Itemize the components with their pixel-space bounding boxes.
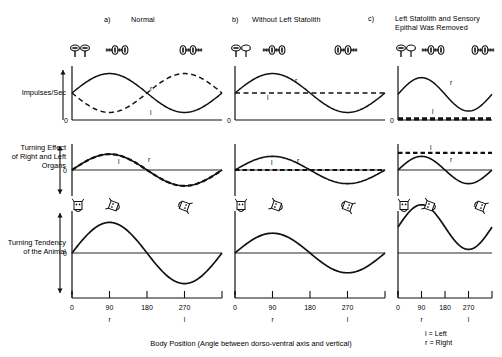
- animal-eye: [405, 204, 407, 206]
- axis-tick-label: 180: [141, 304, 153, 311]
- x-axis-a: 090180270rl: [70, 291, 222, 323]
- curve-c-turning-tendency: [398, 205, 492, 250]
- statocyst-tilted-group: [106, 46, 128, 54]
- panel-a-marker: a): [104, 15, 111, 24]
- curve-label-r: r: [150, 85, 153, 92]
- plot-c-turning-tendency: [398, 205, 492, 295]
- curve-label-r: r: [297, 157, 300, 164]
- plot-b-impulses: 0rl: [227, 66, 385, 124]
- animal-eye: [76, 204, 78, 206]
- axis-tick-label: 270: [179, 304, 191, 311]
- curve-label-l: l: [432, 108, 434, 115]
- plot-a-turning-effect: 0lr: [57, 144, 222, 196]
- x-axis-c: 090180270rl: [396, 291, 492, 323]
- curve-c-impulses-r: [398, 78, 492, 111]
- arrow-head-up: [57, 213, 62, 217]
- animal-icons-b: [235, 198, 355, 214]
- panel-a-title: Normal: [131, 15, 155, 24]
- panel-a: 0rl0lr0090180270rl: [57, 45, 222, 323]
- panel-c-title-line2: Epithal Was Removed: [395, 23, 468, 32]
- curve-a-impulses-l: [72, 74, 222, 113]
- zero-label-impulses: 0: [390, 117, 394, 124]
- animal-eye: [402, 204, 404, 206]
- plot-a-impulses: 0rl: [60, 66, 222, 124]
- curve-label-r: r: [450, 79, 453, 86]
- statocyst-icons-a: [71, 45, 202, 57]
- statocyst-bulb-empty: [242, 45, 251, 51]
- panel-c-marker: c): [368, 14, 374, 23]
- axis-sublabel-r: r: [108, 316, 111, 323]
- animal-icon-group: [105, 198, 121, 213]
- statocyst-icons-b: [232, 45, 357, 57]
- animal-icon-group: [398, 199, 410, 212]
- statocyst-tilted-group: [263, 46, 285, 54]
- panel-c: 0rllr090180270rl: [390, 45, 494, 323]
- arrow-head-up: [60, 70, 65, 74]
- zero-label-turning-tendency: 0: [63, 250, 67, 257]
- row-label-turning-effect-l2: of Right and Left: [12, 152, 66, 161]
- statocyst-tilted-group: [422, 46, 444, 54]
- curve-label-l: l: [267, 94, 269, 101]
- axis-sublabel-l: l: [184, 316, 186, 323]
- panel-b-title: Without Left Statolith: [252, 15, 321, 24]
- curve-label-r: r: [450, 156, 453, 163]
- animal-icons-a: [72, 198, 192, 214]
- animal-eye: [239, 204, 241, 206]
- animal-icon-group: [268, 198, 284, 213]
- animal-body: [400, 202, 408, 210]
- axis-tick-label: 90: [269, 304, 277, 311]
- curve-label-r: r: [148, 156, 151, 163]
- axis-tick-label: 90: [418, 304, 426, 311]
- axis-tick-label: 270: [342, 304, 354, 311]
- statocyst-tilted-group: [180, 46, 202, 54]
- x-axis-b: 090180270rl: [233, 291, 385, 323]
- axis-tick-label: 180: [439, 304, 451, 311]
- axis-sublabel-r: r: [271, 316, 274, 323]
- panel-c-title-line1: Left Statolith and Sensory: [395, 14, 480, 23]
- plot-b-turning-effect: lr: [235, 144, 385, 196]
- axis-sublabel-r: r: [420, 316, 423, 323]
- axis-tick-label: 180: [304, 304, 316, 311]
- arrow-head-down: [57, 289, 62, 293]
- statocyst-bulb-empty: [407, 45, 416, 51]
- row-label-turning-tendency-l1: Turning Tendency: [8, 238, 67, 247]
- curve-label-l: l: [430, 144, 432, 151]
- animal-icon-group: [473, 199, 489, 214]
- legend-right: r = Right: [425, 338, 452, 347]
- legend-left: l = Left: [425, 329, 447, 338]
- zero-label-turning-effect: 0: [63, 167, 67, 174]
- statocyst-tilted-group: [472, 46, 494, 54]
- curve-label-l: l: [271, 159, 273, 166]
- arrow-head-down: [57, 190, 62, 194]
- axis-sublabel-l: l: [468, 316, 470, 323]
- animal-icon-group: [235, 199, 247, 212]
- animal-icon-group: [340, 199, 356, 214]
- axis-sublabel-l: l: [347, 316, 349, 323]
- figure-caption: Body Position (Angle between dorso-ventr…: [150, 339, 351, 348]
- panel-b: 0rllr090180270rl: [227, 45, 385, 323]
- axis-tick-label: 0: [70, 304, 74, 311]
- plot-c-turning-effect: lr: [398, 144, 492, 196]
- curve-label-l: l: [118, 158, 120, 165]
- plot-b-turning-tendency: [235, 211, 385, 295]
- axis-tick-label: 90: [106, 304, 114, 311]
- row-label-impulses: Impulses/Sec: [22, 88, 67, 97]
- axis-tick-label: 0: [396, 304, 400, 311]
- animal-eye: [79, 204, 81, 206]
- axis-tick-label: 270: [463, 304, 475, 311]
- statocyst-tilted-group: [335, 46, 357, 54]
- animal-icon-group: [177, 199, 193, 214]
- statocyst-icons-c: [397, 45, 494, 57]
- animal-eye: [242, 204, 244, 206]
- animal-body: [74, 202, 82, 210]
- axis-tick-label: 0: [233, 304, 237, 311]
- zero-label-impulses: 0: [227, 117, 231, 124]
- figure-root: a)Normalb)Without Left Statolithc)Left S…: [0, 0, 502, 357]
- plot-c-impulses: 0rl: [390, 66, 492, 124]
- zero-label-impulses: 0: [64, 117, 68, 124]
- animal-icons-c: [398, 198, 488, 214]
- curve-label-l: l: [150, 109, 152, 116]
- plot-a-turning-tendency: 0: [57, 211, 222, 295]
- panel-b-marker: b): [232, 15, 239, 24]
- animal-body: [237, 202, 245, 210]
